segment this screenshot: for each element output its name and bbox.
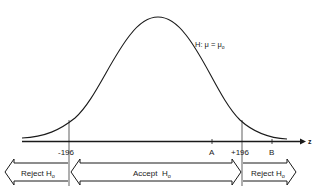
hypothesis-subscript: o — [222, 44, 225, 50]
left-reject-label: Reject Ho — [21, 169, 55, 179]
accept-label: Accept Ho — [133, 169, 171, 179]
point-a-label: A — [209, 148, 215, 157]
hypothesis-label: H: μ = μo — [195, 40, 225, 50]
normal-distribution-diagram: z -196 A +196 B H: μ = μo Reject Ho Acce… — [0, 0, 326, 196]
left-critical-label: -196 — [58, 148, 75, 157]
z-axis-label: z — [308, 138, 312, 145]
right-reject-label: Reject Ho — [251, 169, 285, 179]
right-critical-label: +196 — [231, 148, 250, 157]
point-b-label: B — [269, 148, 274, 157]
normal-curve — [22, 17, 287, 139]
z-axis-arrowhead — [300, 139, 306, 145]
